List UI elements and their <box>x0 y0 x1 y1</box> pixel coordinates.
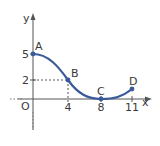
function-curve <box>33 54 132 99</box>
point-b-label: B <box>71 67 79 80</box>
y-tick-label-5: 5 <box>22 48 29 61</box>
point-c-label: C <box>97 85 105 98</box>
point-d-label: D <box>129 75 137 88</box>
function-graph: A B C D y x O 5 2 4 8 11 <box>0 0 160 146</box>
x-tick-label-4: 4 <box>65 101 72 114</box>
y-axis-arrow-icon <box>31 13 36 20</box>
x-tick-label-11: 11 <box>125 101 139 114</box>
x-tick-label-8: 8 <box>98 101 105 114</box>
point-b <box>66 78 71 83</box>
x-axis-label: x <box>142 96 149 109</box>
y-tick-label-2: 2 <box>22 74 29 87</box>
y-axis-label: y <box>23 12 30 25</box>
origin-label: O <box>21 100 30 113</box>
point-a-label: A <box>35 40 43 53</box>
